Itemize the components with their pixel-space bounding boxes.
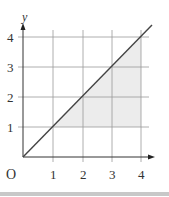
y-axis-arrow-icon [21,23,26,30]
x-axis-arrow-icon [148,155,155,160]
y-tick-1: 1 [7,121,14,134]
bottom-divider [0,192,169,196]
y-axis-label: y [22,11,27,23]
origin-label: O [6,168,16,182]
x-tick-3: 3 [109,168,116,181]
y-tick-3: 3 [7,61,14,74]
x-tick-1: 1 [50,168,57,181]
y-tick-2: 2 [7,91,14,104]
x-tick-2: 2 [80,168,87,181]
y-tick-4: 4 [7,31,14,44]
x-tick-4: 4 [138,168,145,181]
